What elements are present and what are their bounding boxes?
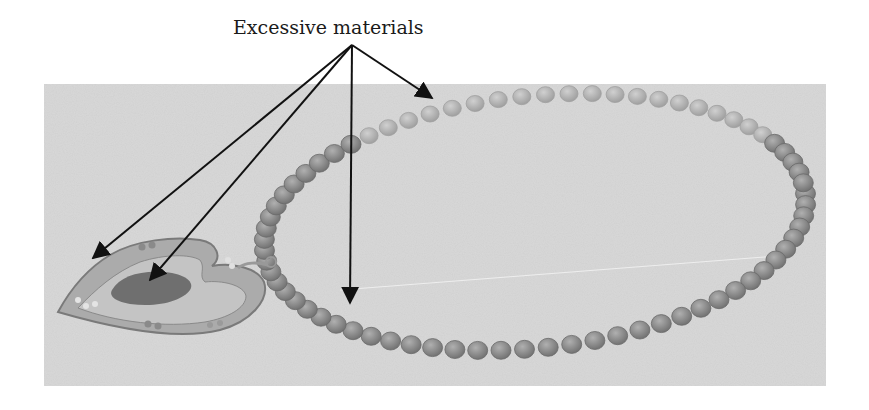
bead	[672, 307, 692, 325]
bead	[606, 87, 624, 103]
bead	[491, 341, 511, 359]
bead	[515, 340, 535, 358]
bead	[466, 96, 484, 112]
bead	[585, 332, 605, 350]
bead	[537, 87, 555, 103]
bead	[421, 106, 439, 122]
bead	[538, 338, 558, 356]
necklace-illustration	[0, 0, 869, 410]
bead	[608, 327, 628, 345]
bead	[709, 291, 729, 309]
bead	[690, 100, 708, 116]
bead	[708, 105, 726, 121]
bead	[583, 86, 601, 102]
bead	[423, 339, 443, 357]
bead	[513, 89, 531, 105]
bead	[361, 327, 381, 345]
annotation-label: Excessive materials	[233, 16, 424, 38]
bead	[628, 88, 646, 104]
bead	[401, 336, 421, 354]
bead	[691, 299, 711, 317]
bead	[400, 112, 418, 128]
bead	[489, 92, 507, 108]
bead	[651, 315, 671, 333]
bead	[381, 332, 401, 350]
bead	[379, 120, 397, 136]
bead	[560, 86, 578, 102]
bead	[468, 341, 488, 359]
bead	[630, 321, 650, 339]
bead	[443, 100, 461, 116]
bead	[670, 95, 688, 111]
bead	[445, 341, 465, 359]
bead	[650, 91, 668, 107]
bead	[360, 128, 378, 144]
bead	[562, 335, 582, 353]
bead	[793, 174, 813, 192]
